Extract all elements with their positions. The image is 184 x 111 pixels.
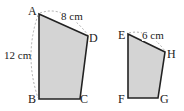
dimension-label-ab: 12 cm — [4, 50, 31, 61]
vertex-label-h: H — [167, 48, 176, 60]
dimension-label-ad: 8 cm — [61, 11, 83, 22]
vertex-label-d: D — [89, 32, 98, 44]
vertex-label-c: C — [80, 93, 88, 105]
vertex-label-e: E — [118, 29, 125, 41]
dimension-label-eh: 6 cm — [142, 30, 164, 41]
vertex-label-b: B — [28, 93, 36, 105]
vertex-label-f: F — [118, 93, 125, 105]
vertex-label-a: A — [28, 5, 37, 17]
dimension-arc-ab — [31, 15, 38, 98]
quadrilateral-efgh — [128, 34, 165, 98]
vertex-label-g: G — [160, 93, 169, 105]
